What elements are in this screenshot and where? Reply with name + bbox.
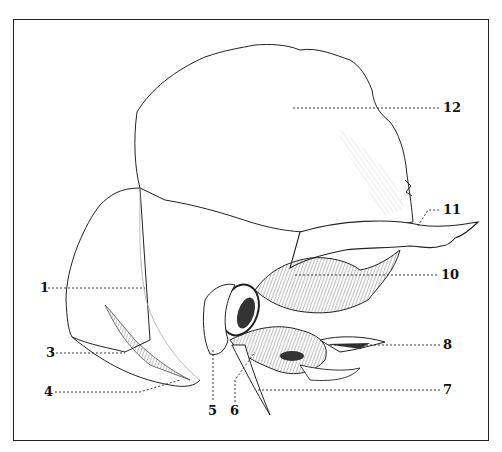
label-5: 5: [208, 404, 217, 417]
label-8: 8: [443, 338, 452, 351]
label-6: 6: [230, 404, 239, 417]
label-3: 3: [46, 346, 55, 359]
label-10: 10: [441, 268, 459, 281]
label-1: 1: [40, 281, 49, 294]
squamous-part: [135, 45, 413, 233]
mastoid-flap: [66, 188, 150, 352]
articular-tubercle: [255, 250, 400, 313]
label-4: 4: [44, 385, 53, 398]
label-7: 7: [443, 383, 452, 396]
label-12: 12: [443, 101, 461, 114]
leader-11: [418, 210, 440, 226]
label-11: 11: [443, 203, 461, 216]
temporal-bone-illustration: [0, 0, 502, 452]
leader-4: [55, 380, 180, 392]
